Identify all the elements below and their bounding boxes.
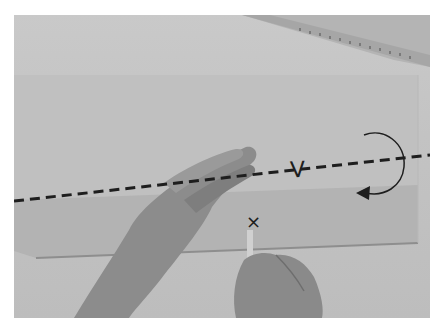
pencil — [247, 230, 253, 258]
photo-scene — [14, 15, 430, 318]
ruler — [242, 15, 430, 67]
instruction-photo: V × — [14, 15, 430, 318]
valley-fold-label: V — [289, 157, 305, 183]
mark-point-label: × — [246, 211, 261, 232]
